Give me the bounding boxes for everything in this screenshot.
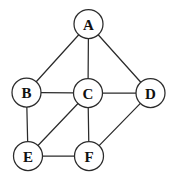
graph-edge-a-d <box>98 35 141 82</box>
graph-node-c[interactable]: C <box>74 79 103 108</box>
graph-node-d[interactable]: D <box>136 79 165 108</box>
graph-edge-b-e <box>27 107 28 142</box>
graph-edge-a-b <box>36 35 79 82</box>
graph-node-label-a: A <box>83 17 94 33</box>
graph-canvas: ABCDEF <box>0 0 174 182</box>
graph-node-b[interactable]: B <box>12 78 41 107</box>
graph-node-label-e: E <box>23 149 33 165</box>
graph-edge-d-f <box>99 103 140 145</box>
graph-node-a[interactable]: A <box>74 10 103 39</box>
graph-edge-c-f <box>88 108 89 142</box>
graph-node-label-d: D <box>145 86 156 102</box>
graph-node-label-c: C <box>83 86 94 102</box>
graph-edge-c-e <box>38 104 78 146</box>
graph-node-e[interactable]: E <box>14 142 43 171</box>
graph-node-label-b: B <box>21 85 31 101</box>
node-layer: ABCDEF <box>12 10 165 171</box>
graph-node-f[interactable]: F <box>75 142 104 171</box>
graph-figure: ABCDEF <box>0 0 174 182</box>
graph-node-label-f: F <box>84 149 93 165</box>
